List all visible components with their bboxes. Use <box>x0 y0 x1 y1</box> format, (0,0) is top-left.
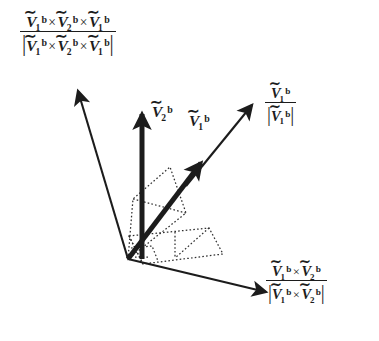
tilde-accent-icon: ∼ <box>55 5 68 20</box>
fraction-denominator: |∼V1b×∼V2b×∼V1b| <box>20 32 116 55</box>
tilde-accent-icon: ∼ <box>299 278 311 292</box>
fraction-denominator: |∼V1b| <box>265 103 296 125</box>
tilde-accent-icon: ∼ <box>270 255 282 269</box>
tilde-accent-icon: ∼ <box>87 5 100 20</box>
tilde-accent-icon: ∼ <box>270 278 282 292</box>
tilde-accent-icon: ∼ <box>24 29 37 44</box>
abs-bar-icon: | <box>321 283 325 304</box>
arrow-v1-b <box>128 163 201 259</box>
tilde-accent-icon: ∼ <box>24 5 37 20</box>
vector-diagram: ∼V1b×∼V2b×∼V1b |∼V1b×∼V2b×∼V1b| ∼V2b ∼V1… <box>0 0 379 341</box>
label-normalized-cross-product-v1-v2: ∼V1b×∼V2b |∼V1b×∼V2b| <box>266 264 327 302</box>
arrow-binormal-axis <box>128 259 266 292</box>
arrow-normal-axis <box>78 91 128 259</box>
label-v1-b-unit-vector: ∼V1b |∼V1b| <box>265 86 296 124</box>
tilde-accent-icon: ∼ <box>55 29 68 44</box>
tilde-accent-icon: ∼ <box>299 255 311 269</box>
tilde-accent-icon: ∼ <box>87 29 100 44</box>
label-v2-b-vector: ∼V2b <box>152 104 173 120</box>
tilde-accent-icon: ∼ <box>150 95 163 110</box>
tilde-accent-icon: ∼ <box>269 100 281 114</box>
tilde-accent-icon: ∼ <box>269 77 281 91</box>
abs-bar-icon: | <box>110 34 114 56</box>
tilde-accent-icon: ∼ <box>187 104 200 119</box>
abs-bar-icon: | <box>290 104 294 125</box>
fraction-denominator: |∼V1b×∼V2b| <box>266 281 327 303</box>
label-normalized-triple-cross-product: ∼V1b×∼V2b×∼V1b |∼V1b×∼V2b×∼V1b| <box>20 14 116 55</box>
label-v1-b-vector: ∼V1b <box>189 113 210 129</box>
